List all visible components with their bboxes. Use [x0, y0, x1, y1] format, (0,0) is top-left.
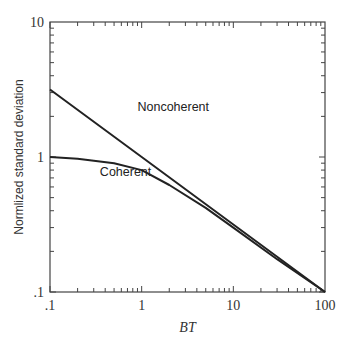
x-tick-label: 100 [315, 298, 336, 313]
series-coherent-line [50, 157, 325, 292]
y-tick-label: 1 [37, 150, 44, 165]
chart: .1110100.1110BTNormlized standard deviat… [0, 0, 349, 338]
series-label-noncoherent: Noncoherent [137, 100, 209, 114]
y-tick-label: 10 [30, 15, 44, 30]
series-label-coherent: Coherent [100, 165, 152, 179]
x-tick-label: .1 [45, 298, 56, 313]
plot-frame [50, 22, 325, 292]
x-tick-label: 1 [138, 298, 145, 313]
y-tick-label: .1 [34, 285, 45, 300]
x-axis-label: BT [179, 320, 197, 335]
series-noncoherent-line [50, 90, 325, 293]
x-tick-label: 10 [226, 298, 240, 313]
y-axis-label: Normlized standard deviation [12, 79, 26, 234]
